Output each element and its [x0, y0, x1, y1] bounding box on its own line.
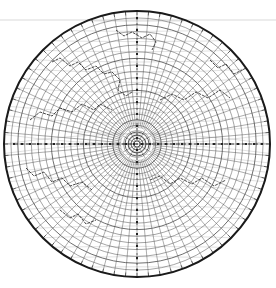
azimuthal-map [0, 0, 276, 288]
